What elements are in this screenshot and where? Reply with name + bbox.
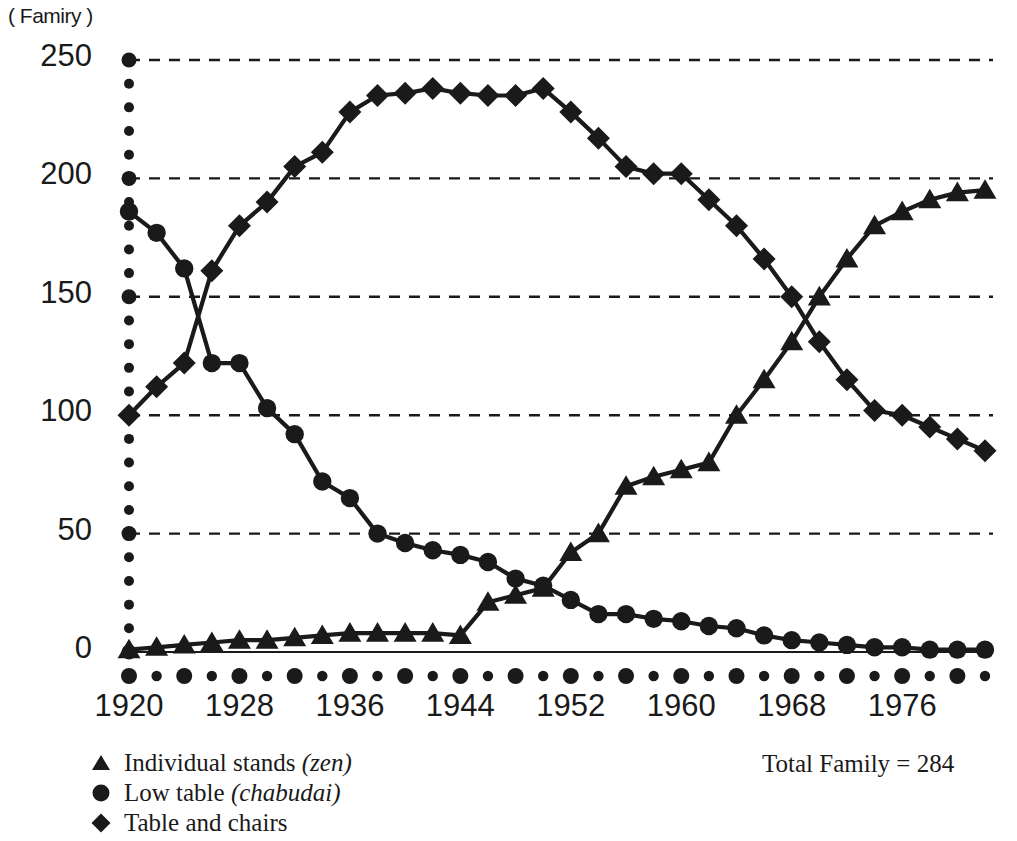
x-axis-minor-tick-dot <box>262 671 272 681</box>
data-point-circle <box>258 399 276 417</box>
x-axis-minor-tick-dot <box>704 671 714 681</box>
x-axis-major-tick-dot <box>287 668 303 684</box>
x-axis-minor-tick-dot <box>648 671 658 681</box>
data-point-diamond <box>200 259 223 282</box>
data-point-triangle <box>587 523 610 543</box>
y-axis-minor-tick-dot <box>124 576 134 586</box>
y-axis-minor-tick-dot <box>124 150 134 160</box>
y-axis-minor-tick-dot <box>124 552 134 562</box>
legend-label-text: Table and chairs <box>124 809 287 836</box>
data-point-diamond <box>918 416 941 439</box>
circle-marker <box>88 780 114 806</box>
y-axis-minor-tick-dot <box>124 244 134 254</box>
data-point-triangle <box>780 331 803 351</box>
x-axis-minor-tick-dot <box>814 671 824 681</box>
data-point-diamond <box>366 84 389 107</box>
y-axis-tick-label: 100 <box>6 393 92 429</box>
data-point-circle <box>147 224 165 242</box>
data-point-circle <box>700 617 718 635</box>
x-axis-major-tick-dot <box>618 668 634 684</box>
x-axis-major-tick-dot <box>728 668 744 684</box>
y-axis-major-tick-dot <box>122 526 137 541</box>
x-axis-major-tick-dot <box>508 668 524 684</box>
data-point-diamond <box>891 404 914 427</box>
x-axis-minor-tick-dot <box>151 671 161 681</box>
data-point-diamond <box>642 162 665 185</box>
data-point-circle <box>313 472 331 490</box>
data-point-triangle <box>697 452 720 472</box>
data-point-circle <box>838 636 856 654</box>
x-axis-major-tick-dot <box>452 668 468 684</box>
y-axis-tick-label: 200 <box>6 156 92 192</box>
y-axis-minor-tick-dot <box>124 600 134 610</box>
x-axis-minor-tick-dot <box>759 671 769 681</box>
data-point-circle <box>644 610 662 628</box>
series-line-diamond <box>129 88 985 450</box>
x-axis-major-tick-dot <box>176 668 192 684</box>
y-axis-minor-tick-dot <box>124 623 134 633</box>
y-axis-minor-tick-dot <box>124 505 134 515</box>
y-axis-minor-tick-dot <box>124 79 134 89</box>
data-point-circle <box>921 640 939 658</box>
data-point-diamond <box>449 82 472 105</box>
data-point-circle <box>534 576 552 594</box>
x-axis-minor-tick-dot <box>869 671 879 681</box>
x-axis-major-tick-dot <box>121 668 137 684</box>
data-point-circle <box>948 640 966 658</box>
x-axis-major-tick-dot <box>839 668 855 684</box>
data-point-circle <box>341 489 359 507</box>
legend-item: Individual stands (zen) <box>88 748 352 778</box>
x-axis-tick-label: 1976 <box>837 688 967 724</box>
data-point-diamond <box>421 77 444 100</box>
legend-item: Low table (chabudai) <box>88 778 352 808</box>
x-axis-minor-tick-dot <box>317 671 327 681</box>
y-axis-minor-tick-dot <box>124 481 134 491</box>
x-axis-major-tick-dot <box>784 668 800 684</box>
data-point-circle <box>893 638 911 656</box>
y-axis-minor-tick-dot <box>124 458 134 468</box>
data-point-circle <box>617 605 635 623</box>
triangle-marker <box>88 750 114 776</box>
data-point-circle <box>120 202 138 220</box>
data-point-triangle <box>863 215 886 235</box>
x-axis-minor-tick-dot <box>538 671 548 681</box>
x-axis-minor-tick-dot <box>593 671 603 681</box>
data-point-circle <box>865 638 883 656</box>
legend-label-text: Low table <box>124 779 231 806</box>
data-point-circle <box>368 524 386 542</box>
y-axis-minor-tick-dot <box>124 126 134 136</box>
legend-label-emphasis: (zen) <box>302 749 352 776</box>
x-axis-minor-tick-dot <box>483 671 493 681</box>
data-point-diamond <box>476 84 499 107</box>
y-axis-tick-label: 150 <box>6 275 92 311</box>
x-axis-major-tick-dot <box>949 668 965 684</box>
data-point-circle <box>203 354 221 372</box>
y-axis-minor-tick-dot <box>124 221 134 231</box>
y-axis-tick-label: 50 <box>6 512 92 548</box>
data-point-circle <box>479 553 497 571</box>
data-point-circle <box>285 425 303 443</box>
data-point-circle <box>727 619 745 637</box>
legend-label-text: Individual stands <box>124 749 302 776</box>
x-axis-major-tick-dot <box>231 668 247 684</box>
y-axis-minor-tick-dot <box>124 315 134 325</box>
y-axis-tick-label: 0 <box>6 630 92 666</box>
x-axis-major-tick-dot <box>563 668 579 684</box>
x-axis-minor-tick-dot <box>980 671 990 681</box>
legend-item-label: Individual stands (zen) <box>124 748 352 778</box>
x-axis-minor-tick-dot <box>207 671 217 681</box>
total-family-annotation: Total Family = 284 <box>762 750 954 778</box>
data-point-circle <box>451 546 469 564</box>
y-axis-major-tick-dot <box>122 289 137 304</box>
x-axis-minor-tick-dot <box>428 671 438 681</box>
data-point-circle <box>230 354 248 372</box>
y-axis-minor-tick-dot <box>124 268 134 278</box>
data-point-diamond <box>946 427 969 450</box>
diamond-marker <box>88 810 114 836</box>
y-axis-minor-tick-dot <box>124 434 134 444</box>
data-point-diamond <box>974 439 997 462</box>
data-point-circle <box>976 640 994 658</box>
x-axis-major-tick-dot <box>342 668 358 684</box>
data-point-circle <box>783 631 801 649</box>
y-axis-minor-tick-dot <box>124 363 134 373</box>
